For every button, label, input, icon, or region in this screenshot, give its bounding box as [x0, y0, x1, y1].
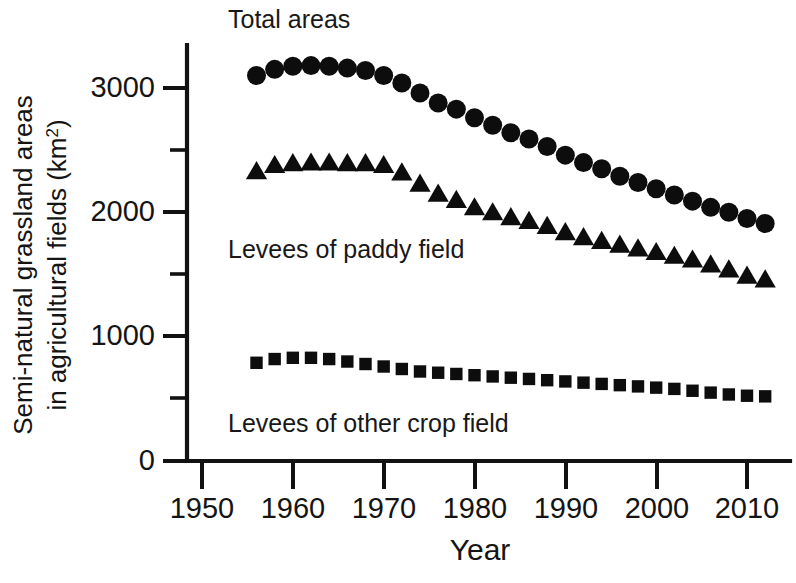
data-point-levees-paddy-field — [736, 266, 757, 284]
total-areas-label: Total areas — [228, 5, 350, 33]
data-point-levees-paddy-field — [355, 153, 376, 171]
data-point-levees-paddy-field — [300, 152, 321, 170]
x-tick-label-2000: 2000 — [625, 492, 690, 524]
data-point-levees-other-crop-field — [396, 363, 408, 375]
data-point-levees-other-crop-field — [723, 388, 735, 400]
y-tick-marks — [163, 88, 187, 461]
data-point-levees-paddy-field — [682, 249, 703, 267]
y-axis-title-line1: Semi-natural grassland areas — [8, 95, 38, 435]
data-point-levees-paddy-field — [282, 153, 303, 171]
x-axis-title: Year — [450, 533, 511, 566]
series-levees-paddy-field — [246, 152, 776, 287]
data-point-total-areas — [338, 59, 357, 78]
y-tick-label-0: 0 — [139, 444, 155, 476]
data-point-total-areas — [610, 167, 629, 186]
data-point-total-areas — [756, 214, 775, 233]
data-point-levees-other-crop-field — [559, 375, 571, 387]
data-point-levees-other-crop-field — [741, 390, 753, 402]
data-point-total-areas — [683, 192, 702, 211]
data-point-levees-paddy-field — [755, 269, 776, 287]
data-point-levees-paddy-field — [373, 155, 394, 173]
series-total-areas — [247, 56, 775, 233]
data-point-levees-other-crop-field — [595, 378, 607, 390]
y-axis-title-line2-pre: in agricultural fields (km — [42, 138, 72, 411]
data-point-levees-paddy-field — [664, 246, 685, 264]
y-axis-title-line2: in agricultural fields (km2) — [42, 119, 72, 410]
other-crop-field-label: Levees of other crop field — [228, 409, 509, 437]
data-point-total-areas — [447, 100, 466, 119]
data-point-levees-paddy-field — [264, 155, 285, 173]
data-point-levees-other-crop-field — [614, 379, 626, 391]
data-point-levees-paddy-field — [428, 183, 449, 201]
data-point-levees-other-crop-field — [650, 381, 662, 393]
y-tick-label-3000: 3000 — [90, 71, 155, 103]
chart-figure: 3000 2000 1000 0 1950 1960 1970 1980 199… — [0, 0, 796, 583]
data-point-total-areas — [411, 83, 430, 102]
data-point-levees-paddy-field — [700, 254, 721, 272]
y-axis-title: Semi-natural grassland areas in agricult… — [8, 95, 72, 435]
data-point-levees-paddy-field — [518, 211, 539, 229]
data-point-total-areas — [629, 173, 648, 192]
data-point-levees-other-crop-field — [305, 352, 317, 364]
data-point-total-areas — [538, 137, 557, 156]
data-point-levees-paddy-field — [500, 207, 521, 225]
y-tick-label-1000: 1000 — [90, 319, 155, 351]
paddy-field-label: Levees of paddy field — [228, 235, 464, 263]
data-point-levees-paddy-field — [718, 259, 739, 277]
data-point-total-areas — [465, 108, 484, 127]
data-point-levees-other-crop-field — [523, 373, 535, 385]
data-point-total-areas — [738, 209, 757, 228]
data-point-levees-other-crop-field — [359, 358, 371, 370]
data-point-levees-other-crop-field — [432, 367, 444, 379]
data-point-total-areas — [283, 57, 302, 76]
data-point-total-areas — [265, 60, 284, 79]
data-point-levees-paddy-field — [537, 216, 558, 234]
x-tick-label-2010: 2010 — [715, 492, 780, 524]
data-point-levees-paddy-field — [573, 227, 594, 245]
data-point-total-areas — [592, 159, 611, 178]
data-point-total-areas — [483, 116, 502, 135]
data-point-levees-other-crop-field — [287, 352, 299, 364]
data-point-total-areas — [247, 66, 266, 85]
x-tick-marks — [202, 461, 747, 489]
data-point-levees-other-crop-field — [341, 355, 353, 367]
data-point-total-areas — [501, 123, 520, 142]
data-point-levees-paddy-field — [337, 153, 358, 171]
data-point-total-areas — [356, 61, 375, 80]
data-point-levees-paddy-field — [482, 202, 503, 220]
data-point-levees-paddy-field — [555, 222, 576, 240]
data-point-levees-other-crop-field — [450, 368, 462, 380]
data-point-levees-other-crop-field — [268, 353, 280, 365]
x-tick-label-1980: 1980 — [443, 492, 508, 524]
data-point-levees-other-crop-field — [686, 385, 698, 397]
y-tick-label-2000: 2000 — [90, 195, 155, 227]
x-tick-label-1950: 1950 — [170, 492, 235, 524]
data-point-total-areas — [302, 56, 321, 75]
series-levees-other-crop-field — [250, 352, 771, 403]
data-point-levees-paddy-field — [646, 242, 667, 260]
x-tick-label-1960: 1960 — [261, 492, 326, 524]
data-point-total-areas — [647, 179, 666, 198]
data-point-levees-paddy-field — [464, 197, 485, 215]
data-point-total-areas — [719, 203, 738, 222]
data-point-levees-paddy-field — [391, 162, 412, 180]
data-point-total-areas — [520, 129, 539, 148]
data-point-total-areas — [665, 185, 684, 204]
y-axis-title-superscript: 2 — [43, 128, 62, 137]
data-point-levees-other-crop-field — [414, 365, 426, 377]
data-point-total-areas — [701, 198, 720, 217]
data-point-levees-paddy-field — [409, 174, 430, 192]
data-point-total-areas — [429, 93, 448, 112]
data-point-levees-paddy-field — [627, 238, 648, 256]
data-point-levees-other-crop-field — [377, 360, 389, 372]
data-point-levees-other-crop-field — [486, 370, 498, 382]
data-point-levees-other-crop-field — [250, 357, 262, 369]
chart-svg: 3000 2000 1000 0 1950 1960 1970 1980 199… — [0, 0, 796, 583]
x-tick-labels: 1950 1960 1970 1980 1990 2000 2010 — [170, 492, 780, 524]
data-point-total-areas — [574, 153, 593, 172]
data-point-levees-other-crop-field — [577, 376, 589, 388]
x-tick-label-1970: 1970 — [352, 492, 417, 524]
data-point-total-areas — [392, 74, 411, 93]
data-point-levees-other-crop-field — [323, 353, 335, 365]
data-point-levees-paddy-field — [246, 161, 267, 179]
